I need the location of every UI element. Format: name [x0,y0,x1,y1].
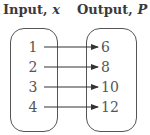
mapping-arrows [0,0,150,135]
